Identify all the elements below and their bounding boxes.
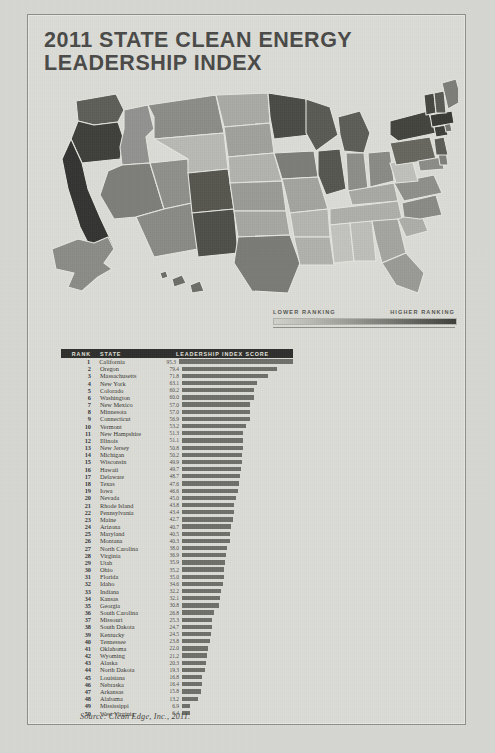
cell-rank: 21	[61, 502, 95, 509]
state-wisconsin	[306, 99, 338, 151]
cell-bar	[179, 453, 293, 457]
cell-state: North Carolina	[95, 545, 162, 552]
cell-rank: 37	[61, 616, 95, 623]
state-kansas	[230, 181, 286, 211]
cell-rank: 49	[61, 702, 95, 709]
table-row: 45Louisiana16.8	[61, 674, 293, 681]
cell-bar	[179, 668, 293, 672]
score-bar	[182, 410, 250, 414]
cell-state: Nebraska	[95, 681, 162, 688]
cell-bar	[179, 661, 293, 665]
cell-bar	[179, 639, 293, 643]
table-row: 12Illinois51.1	[61, 437, 293, 444]
table-body: 1California95.32Oregon79.43Massachusetts…	[61, 358, 293, 717]
score-bar	[182, 661, 206, 665]
cell-bar	[179, 431, 293, 435]
state-hawaii-inset	[160, 271, 168, 279]
score-bar	[182, 460, 242, 464]
cell-state: Nevada	[95, 494, 162, 501]
cell-state: Wisconsin	[95, 458, 162, 465]
cell-score: 45.0	[162, 495, 179, 501]
cell-score: 40.7	[162, 524, 179, 530]
table-row: 42Wyoming21.2	[61, 652, 293, 659]
cell-bar	[179, 582, 293, 586]
cell-rank: 10	[61, 423, 95, 430]
table-row: 24Arizona40.7	[61, 523, 293, 530]
table-row: 30Ohio35.2	[61, 566, 293, 573]
cell-score: 49.9	[162, 459, 179, 465]
cell-score: 22.0	[162, 645, 179, 651]
cell-bar	[179, 446, 293, 450]
table-row: 32Idaho34.6	[61, 580, 293, 587]
cell-score: 35.9	[162, 559, 179, 565]
cell-rank: 33	[61, 588, 95, 595]
cell-bar	[176, 359, 293, 363]
cell-state: Vermont	[95, 423, 162, 430]
score-bar	[182, 474, 240, 478]
cell-rank: 9	[61, 415, 95, 422]
score-bar	[182, 646, 208, 650]
table-header-row: RANK STATE LEADERSHIP INDEX SCORE	[61, 349, 293, 358]
cell-state: Utah	[95, 559, 162, 566]
cell-bar	[179, 496, 293, 500]
legend-gradient-bar	[273, 318, 457, 325]
cell-bar	[179, 510, 293, 514]
table-row: 11New Hampshire51.3	[61, 430, 293, 437]
cell-state: Alabama	[95, 695, 162, 702]
score-bar	[182, 424, 246, 428]
cell-score: 60.0	[162, 394, 179, 400]
cell-bar	[179, 704, 293, 708]
cell-rank: 12	[61, 437, 95, 444]
cell-state: South Dakota	[95, 623, 162, 630]
table-row: 46Nebraska16.4	[61, 681, 293, 688]
cell-rank: 3	[61, 372, 95, 379]
legend-rule	[273, 327, 455, 328]
state-texas	[234, 235, 300, 293]
cell-state: Minnesota	[95, 408, 162, 415]
cell-bar	[179, 589, 293, 593]
cell-bar	[179, 603, 293, 607]
cell-rank: 4	[61, 380, 95, 387]
cell-rank: 39	[61, 631, 95, 638]
cell-bar	[179, 374, 293, 378]
table-row: 47Arkansas15.8	[61, 688, 293, 695]
score-bar	[182, 596, 220, 600]
state-alabama	[350, 221, 376, 261]
cell-bar	[179, 402, 293, 406]
cell-score: 25.3	[162, 617, 179, 623]
table-row: 7New Mexico57.0	[61, 401, 293, 408]
table-row: 31Florida35.0	[61, 573, 293, 580]
score-bar	[182, 489, 238, 493]
cell-score: 24.7	[162, 624, 179, 630]
state-minnesota	[268, 93, 310, 139]
score-bar	[182, 610, 214, 614]
column-header-score: LEADERSHIP INDEX SCORE	[162, 351, 293, 357]
score-bar	[182, 381, 257, 385]
poster-frame: 2011 STATE CLEAN ENERGY LEADERSHIP INDEX	[27, 14, 466, 725]
table-row: 33Indiana32.2	[61, 588, 293, 595]
cell-score: 51.3	[162, 430, 179, 436]
cell-score: 32.2	[162, 588, 179, 594]
state-new-jersey	[434, 137, 448, 155]
column-header-rank: RANK	[61, 351, 95, 357]
us-choropleth-map	[38, 77, 458, 307]
cell-bar	[179, 682, 293, 686]
cell-rank: 5	[61, 387, 95, 394]
cell-score: 60.2	[162, 387, 179, 393]
state-oklahoma	[234, 211, 290, 237]
table-row: 10Vermont53.2	[61, 423, 293, 430]
table-row: 19Iowa46.6	[61, 487, 293, 494]
score-bar	[182, 632, 211, 636]
state-colorado	[188, 169, 234, 213]
state-indiana	[346, 153, 368, 191]
cell-bar	[179, 503, 293, 507]
cell-state: Idaho	[95, 580, 162, 587]
cell-rank: 2	[61, 365, 95, 372]
cell-bar	[179, 460, 293, 464]
cell-rank: 15	[61, 458, 95, 465]
state-louisiana	[294, 237, 334, 265]
cell-bar	[179, 474, 293, 478]
score-bar	[182, 374, 268, 378]
cell-score: 35.2	[162, 567, 179, 573]
cell-score: 35.0	[162, 574, 179, 580]
